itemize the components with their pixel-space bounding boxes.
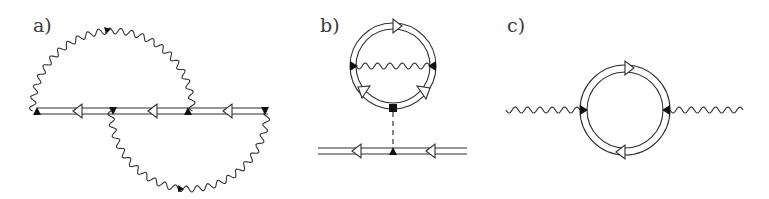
propagator-arrows [73,104,232,118]
external-wavy-line-left [506,107,580,113]
arrow-icon [358,86,370,98]
arrow-left-icon [352,144,361,158]
polarization-loop [580,65,670,155]
upper-wavy-line [30,28,196,111]
panel-b-label: b) [320,14,340,36]
arrow-right-icon [393,19,402,33]
panel-c-label: c) [507,14,525,36]
vertex-icon [389,104,397,112]
arrow-left-icon [148,104,157,118]
panel-b: b) [318,14,467,158]
arrow-left-icon [223,104,232,118]
lower-wavy-line [108,111,269,192]
panel-a-label: a) [33,14,52,36]
vertex-icon [350,61,358,71]
panel-c: c) [506,14,743,159]
arrow-left-icon [426,144,435,158]
panel-a: a) [30,14,270,192]
vertex-icon [428,61,436,71]
external-wavy-line-right [670,107,743,113]
feynman-diagrams-figure: a) b) [0,0,769,199]
internal-wavy-line [356,63,430,69]
arrow-left-icon [73,104,82,118]
